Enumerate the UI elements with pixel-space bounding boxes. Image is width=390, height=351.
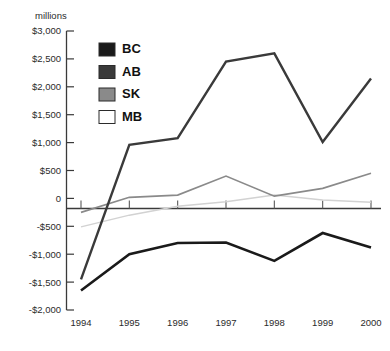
y-axis-tick-label: $3,000 [32,25,61,36]
y-axis-tick-label: $2,500 [32,53,61,64]
y-axis-tick-label: $1,000 [32,137,61,148]
legend-label-sk: SK [122,86,141,101]
y-axis-units-label: millions [35,10,67,21]
y-axis-tick-label: -$2,000 [29,304,61,315]
legend-label-ab: AB [122,64,141,79]
x-axis-tick-label: 1998 [264,317,285,328]
x-axis-tick-label: 1999 [312,317,333,328]
legend-swatch-sk [99,88,115,101]
legend-swatch-mb [99,111,115,124]
line-chart: millions $3,000$2,500$2,000$1,500$1,000$… [0,0,390,351]
y-axis-tick-label: $2,000 [32,81,61,92]
chart-legend: BCABSKMB [99,41,142,124]
y-axis-tick-label: $500 [40,165,61,176]
legend-label-bc: BC [122,41,141,56]
x-axis-tick-label: 1995 [119,317,140,328]
y-axis-tick-label: -$500 [37,221,61,232]
y-axis-tick-marks [67,31,75,310]
y-axis-tick-label: -$1,000 [29,249,61,260]
series-line-bc [81,233,371,290]
x-axis-tick-label: 1994 [70,317,91,328]
x-axis-tick-labels: 1994199519961997199819992000 [70,317,381,328]
x-axis-tick-label: 2000 [360,317,381,328]
y-axis-tick-label: 0 [56,193,61,204]
legend-swatch-bc [99,43,115,56]
legend-label-mb: MB [122,109,142,124]
y-axis-tick-label: -$1,500 [29,277,61,288]
chart-container: millions $3,000$2,500$2,000$1,500$1,000$… [0,0,390,351]
series-line-mb [81,195,371,227]
y-axis-tick-label: $1,500 [32,109,61,120]
units-label-group: millions [35,10,67,21]
y-axis-tick-labels: $3,000$2,500$2,000$1,500$1,000$5000-$500… [29,25,61,315]
x-axis-tick-label: 1996 [167,317,188,328]
legend-swatch-ab [99,66,115,79]
x-axis-tick-label: 1997 [215,317,236,328]
